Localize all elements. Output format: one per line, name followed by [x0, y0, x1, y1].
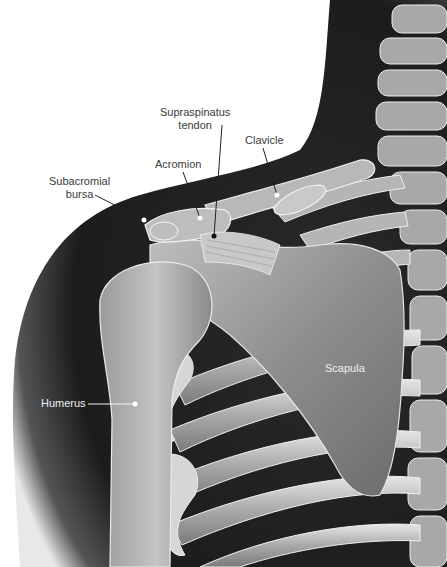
- label-supraspinatus-line1: Supraspinatus: [160, 106, 230, 119]
- anatomy-figure: Supraspinatus tendon Clavicle Acromion S…: [0, 0, 447, 567]
- label-supraspinatus-tendon: Supraspinatus tendon: [160, 106, 230, 132]
- label-acromion: Acromion: [155, 158, 201, 171]
- label-acromion-text: Acromion: [155, 158, 201, 170]
- label-subacromial-bursa: Subacromial bursa: [49, 175, 110, 201]
- label-clavicle-text: Clavicle: [245, 134, 284, 146]
- supraspinatus-dot: [212, 234, 217, 239]
- acromion-dot: [198, 216, 203, 221]
- label-scapula-text: Scapula: [325, 362, 365, 374]
- label-scapula: Scapula: [325, 362, 365, 375]
- label-subacromial-line2: bursa: [66, 188, 94, 201]
- label-clavicle: Clavicle: [245, 134, 284, 147]
- label-humerus-text: Humerus: [41, 397, 86, 409]
- subacromial-dot: [142, 218, 147, 223]
- label-subacromial-line1: Subacromial: [49, 175, 110, 188]
- label-supraspinatus-line2: tendon: [178, 119, 212, 132]
- label-humerus: Humerus: [41, 397, 86, 410]
- humerus-dot: [133, 402, 138, 407]
- clavicle-dot: [275, 193, 280, 198]
- shoulder-illustration: [0, 0, 447, 567]
